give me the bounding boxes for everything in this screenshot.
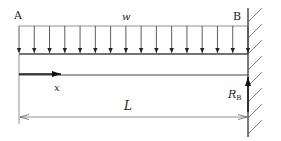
label-length: L: [123, 99, 132, 113]
label-b: B: [233, 10, 241, 23]
reaction-main: R: [227, 88, 236, 101]
label-x: x: [54, 82, 60, 93]
label-reaction: RB: [227, 88, 241, 102]
wall-hatch: [248, 8, 262, 134]
beam-diagram: A B w x L RB: [0, 0, 281, 141]
label-load-w: w: [122, 11, 131, 22]
label-a: A: [13, 9, 23, 22]
reaction-subscript: B: [236, 94, 241, 102]
distributed-load-arrows: [19, 26, 248, 53]
